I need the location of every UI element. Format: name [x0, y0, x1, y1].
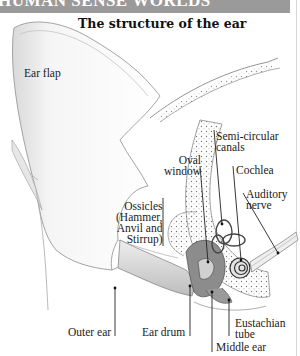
label-ear-flap: Ear flap [24, 68, 61, 79]
label-outer-ear: Outer ear [68, 327, 111, 338]
cochlea-shape [230, 258, 250, 278]
label-ossicles: Ossicles (Hammer, Anvil and Stirrup) [116, 201, 162, 245]
label-auditory-nerve: Auditory nerve [246, 189, 288, 211]
label-cochlea: Cochlea [236, 165, 274, 176]
ear-anatomy-illustration [0, 0, 300, 356]
label-middle-ear: Middle ear [216, 342, 266, 353]
label-ear-drum: Ear drum [142, 327, 185, 338]
label-semicircular-canals: Semi-circular canals [216, 131, 279, 153]
label-oval-window: Oval window [164, 155, 201, 177]
label-eustachian-tube: Eustachian tube [235, 318, 285, 340]
